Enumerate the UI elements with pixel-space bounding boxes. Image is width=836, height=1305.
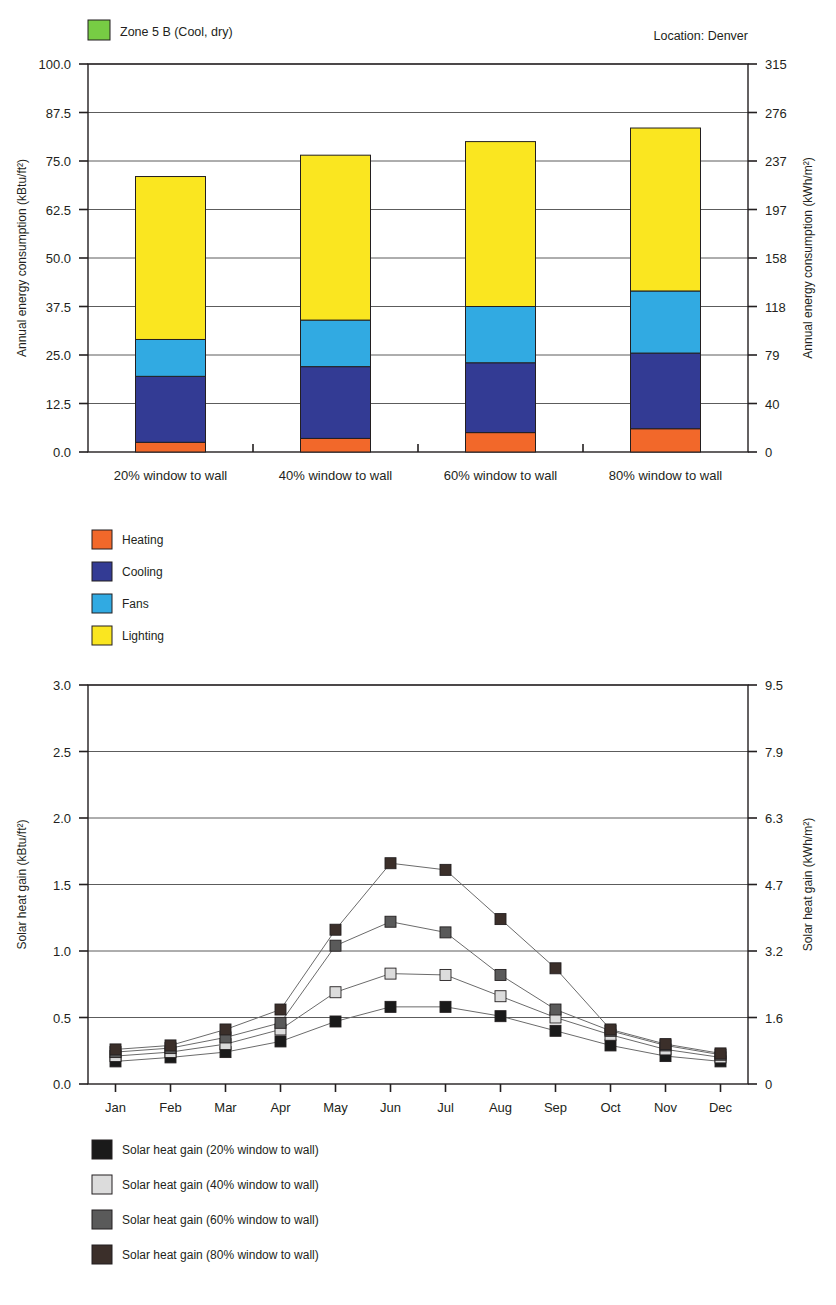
gridlines: 0.000.51.61.03.21.54.72.06.32.57.93.09.5 (53, 678, 783, 1092)
data-point-marker (330, 924, 341, 935)
bar-segment-lighting (301, 155, 371, 320)
data-point-marker (330, 987, 341, 998)
data-point-marker (165, 1040, 176, 1051)
zone-swatch (88, 20, 110, 40)
data-point-marker (385, 916, 396, 927)
x-month-label: Aug (489, 1100, 512, 1115)
x-category-label: 20% window to wall (114, 468, 228, 483)
data-point-marker (440, 1001, 451, 1012)
y-tick-label: 0.5 (53, 1011, 71, 1026)
data-point-marker (550, 963, 561, 974)
y-tick-label: 1.5 (53, 878, 71, 893)
y-tick-label: 0.0 (53, 1077, 71, 1092)
data-point-marker (605, 1040, 616, 1051)
legend-swatch-series-4 (92, 1245, 112, 1264)
bar-segment-fans (631, 291, 701, 353)
x-month-label: Jul (437, 1100, 454, 1115)
y-tick-label: 3.0 (53, 678, 71, 693)
y-tick-label: 37.5 (46, 300, 71, 315)
bar-segment-fans (466, 307, 536, 363)
data-point-marker (440, 969, 451, 980)
y-tick-label: 2.5 (53, 745, 71, 760)
data-point-marker (330, 1016, 341, 1027)
y-tick-label-right: 7.9 (765, 745, 783, 760)
legend-swatch-cooling (92, 562, 112, 581)
bar-segment-fans (301, 320, 371, 367)
line-series (116, 863, 721, 1053)
y-tick-label: 50.0 (46, 251, 71, 266)
bar-segment-lighting (136, 177, 206, 340)
bar-stack (301, 155, 371, 452)
data-point-marker (110, 1044, 121, 1055)
y-tick-label: 62.5 (46, 203, 71, 218)
legend-swatch-series-2 (92, 1175, 112, 1194)
data-point-marker (275, 1036, 286, 1047)
x-category-label: 60% window to wall (444, 468, 558, 483)
y-tick-label-right: 158 (765, 251, 787, 266)
data-point-marker (440, 864, 451, 875)
y-tick-label-right: 3.2 (765, 944, 783, 959)
data-point-marker (275, 1004, 286, 1015)
bar-stack (136, 177, 206, 452)
legend-label: Solar heat gain (40% window to wall) (122, 1178, 319, 1192)
line-chart-legend: Solar heat gain (20% window to wall)Sola… (92, 1140, 319, 1264)
bar-segment-heating (631, 429, 701, 452)
legend-label: Heating (122, 533, 163, 547)
data-point-marker (220, 1024, 231, 1035)
data-point-marker (385, 1001, 396, 1012)
legend-label: Solar heat gain (80% window to wall) (122, 1248, 319, 1262)
data-point-marker (660, 1039, 671, 1050)
location-label: Location: Denver (653, 29, 748, 43)
zone-label: Zone 5 B (Cool, dry) (120, 25, 233, 39)
y-tick-label-right: 0 (765, 445, 772, 460)
y-tick-label-right: 315 (765, 57, 787, 72)
solar-heat-gain-chart: 0.000.51.61.03.21.54.72.06.32.57.93.09.5… (0, 660, 836, 1305)
annual-energy-consumption-chart: Zone 5 B (Cool, dry)Location: Denver0.00… (0, 0, 836, 660)
x-month-label: Oct (600, 1100, 621, 1115)
y-tick-label: 87.5 (46, 106, 71, 121)
bar-segment-heating (466, 433, 536, 452)
bar-segment-fans (136, 339, 206, 376)
legend-swatch-series-3 (92, 1210, 112, 1229)
data-point-marker (440, 927, 451, 938)
x-month-label: May (323, 1100, 348, 1115)
legend-swatch-series-1 (92, 1140, 112, 1159)
bar-segment-cooling (301, 367, 371, 439)
legend-label: Cooling (122, 565, 163, 579)
x-month-label: Feb (159, 1100, 181, 1115)
y-tick-label: 100.0 (38, 57, 71, 72)
bar-segment-heating (301, 438, 371, 452)
y-tick-label-right: 6.3 (765, 811, 783, 826)
y-tick-label: 25.0 (46, 348, 71, 363)
x-month-label: Sep (544, 1100, 567, 1115)
x-month-label: Apr (270, 1100, 291, 1115)
x-month-label: Jun (380, 1100, 401, 1115)
data-point-marker (605, 1024, 616, 1035)
y-tick-label-right: 40 (765, 397, 779, 412)
legend-label: Solar heat gain (60% window to wall) (122, 1213, 319, 1227)
bar-stack (466, 142, 536, 452)
x-axis: JanFebMarAprMayJunJulAugSepOctNovDec (105, 1084, 733, 1115)
data-point-marker (550, 1025, 561, 1036)
y-axis-title-right: Solar heat gain (kWh/m²) (801, 818, 815, 951)
y-tick-label-right: 4.7 (765, 878, 783, 893)
x-month-label: Nov (654, 1100, 678, 1115)
data-point-marker (330, 940, 341, 951)
figure-page: Zone 5 B (Cool, dry)Location: Denver0.00… (0, 0, 836, 1305)
y-tick-label-right: 79 (765, 348, 779, 363)
y-axis-title-right: Annual energy consumption (kWh/m²) (801, 157, 815, 358)
y-tick-label-right: 237 (765, 154, 787, 169)
legend-label: Lighting (122, 629, 164, 643)
x-category-label: 80% window to wall (609, 468, 723, 483)
bar-segment-cooling (631, 353, 701, 429)
data-point-marker (495, 1011, 506, 1022)
data-point-marker (495, 991, 506, 1002)
data-point-marker (495, 914, 506, 925)
y-tick-label: 1.0 (53, 944, 71, 959)
bars: 20% window to wall40% window to wall60% … (114, 128, 723, 483)
bar-stack (631, 128, 701, 452)
y-tick-label: 2.0 (53, 811, 71, 826)
data-point-marker (275, 1017, 286, 1028)
legend-swatch-fans (92, 594, 112, 613)
legend-swatch-lighting (92, 626, 112, 645)
